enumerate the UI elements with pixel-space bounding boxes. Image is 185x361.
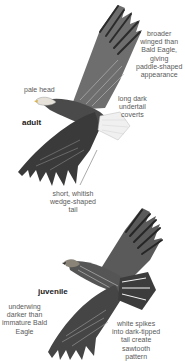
annotation-line: coverts <box>118 111 147 119</box>
annotation-underwing: underwing darker than immature Bald Eagl… <box>2 303 47 336</box>
annotation-sawtooth-tail: white spikes into dark-tipped tail creat… <box>112 320 160 361</box>
annotation-line: undertail <box>118 103 147 111</box>
annotation-line: paddle-shaped <box>136 63 182 71</box>
annotation-line: short, whitish <box>50 190 96 198</box>
annotation-line: tail <box>50 206 96 214</box>
annotation-line: tail create <box>112 336 160 344</box>
annotation-line: into dark-tipped <box>112 328 160 336</box>
annotation-pale-head: pale head <box>24 86 55 94</box>
annotation-line: wedge-shaped <box>50 198 96 206</box>
label-adult: adult <box>22 119 41 127</box>
annotation-line: immature Bald <box>2 319 47 327</box>
label-juvenile: juvenile <box>38 288 68 296</box>
annotation-line: appearance <box>136 71 182 79</box>
annotation-line: underwing <box>2 303 47 311</box>
annotation-line: giving <box>136 55 182 63</box>
annotation-undertail-coverts: long dark undertail coverts <box>118 95 147 120</box>
annotation-line: winged than <box>136 38 182 46</box>
annotation-line: darker than <box>2 311 47 319</box>
annotation-wedge-tail: short, whitish wedge-shaped tail <box>50 190 96 215</box>
annotation-line: pattern <box>112 353 160 361</box>
annotation-line: broader <box>136 30 182 38</box>
annotation-line: pale head <box>24 86 55 94</box>
annotation-line: white spikes <box>112 320 160 328</box>
annotation-line: long dark <box>118 95 147 103</box>
annotation-line: Bald Eagle, <box>136 46 182 54</box>
annotation-line: sawtooth <box>112 345 160 353</box>
annotation-line: Eagle <box>2 328 47 336</box>
annotation-broader-wings: broader winged than Bald Eagle, giving p… <box>136 30 182 79</box>
